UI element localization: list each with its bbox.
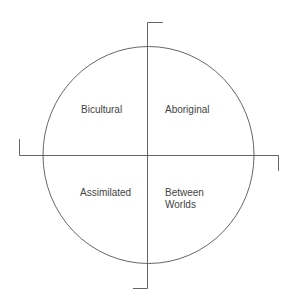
circle (43, 47, 254, 264)
quadrant-label-assimilated: Assimilated (80, 187, 131, 199)
quadrant-label-between-worlds-line1: Between (165, 187, 204, 199)
quadrant-label-between-worlds-line2: Worlds (165, 199, 196, 211)
quadrant-label-aboriginal: Aboriginal (165, 104, 209, 116)
horizontal-axis (20, 139, 279, 171)
quadrant-diagram (0, 0, 298, 306)
quadrant-label-bicultural: Bicultural (81, 104, 122, 116)
